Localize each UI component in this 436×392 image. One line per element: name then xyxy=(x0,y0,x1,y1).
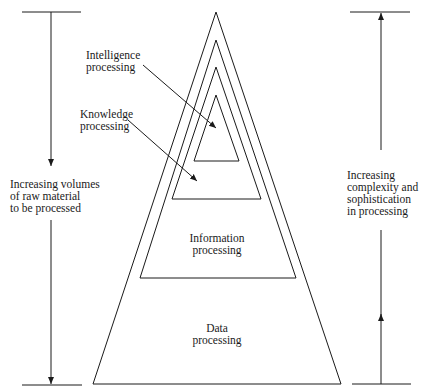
information-processing-label: Information processing xyxy=(186,232,248,256)
data-processing-label: Data processing xyxy=(186,322,248,346)
intelligence-processing-label: Intelligence processing xyxy=(86,49,140,73)
left-axis-label: Increasing volumes of raw material to be… xyxy=(10,178,100,214)
intelligence-processing-triangle xyxy=(194,95,239,161)
knowledge-processing-label: Knowledge processing xyxy=(80,108,133,132)
knowledge-pointer-arrow xyxy=(128,120,197,181)
right-axis-label: Increasing complexity and sophistication… xyxy=(347,169,418,217)
